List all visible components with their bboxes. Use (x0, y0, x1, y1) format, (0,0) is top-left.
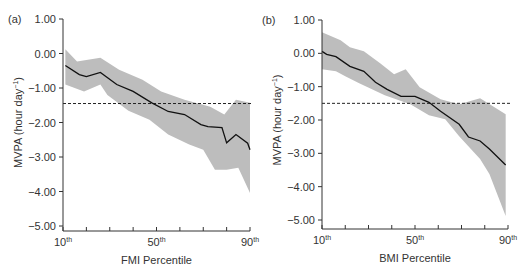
y-tick-label: 1.00 (35, 13, 56, 25)
x-tick-label: 10th (313, 234, 331, 246)
x-tick-label: 10th (54, 236, 72, 248)
panel-label: (a) (8, 13, 21, 25)
y-tick-label: 0.00 (294, 47, 315, 59)
x-tick-label: 90th (241, 236, 259, 248)
x-tick-label: 90th (499, 234, 517, 246)
y-tick-label: −1.00 (287, 81, 315, 93)
y-tick-label: −2.00 (28, 117, 56, 129)
confidence-band (65, 49, 250, 193)
panel-a-fmi-chart: 1.000.00−1.00−2.00−3.00−4.00−5.0010th50t… (8, 13, 259, 266)
y-tick-label: −4.00 (287, 181, 315, 193)
panel-b-bmi-chart: 1.000.00−1.00−2.00−3.00−4.00−5.0010th50t… (262, 14, 517, 264)
y-tick-label: −5.00 (287, 214, 315, 226)
x-tick-label: 50th (147, 236, 165, 248)
y-tick-label: −4.00 (28, 186, 56, 198)
y-tick-label: 0.00 (35, 48, 56, 60)
panel-label: (b) (262, 14, 275, 26)
figure: 1.000.00−1.00−2.00−3.00−4.00−5.0010th50t… (0, 0, 532, 274)
y-axis-label: MVPA (hour day−1) (271, 75, 283, 166)
x-axis-label: BMI Percentile (379, 252, 451, 264)
y-tick-label: −3.00 (287, 147, 315, 159)
x-tick-label: 50th (406, 234, 424, 246)
y-tick-label: −2.00 (287, 114, 315, 126)
y-tick-label: −5.00 (28, 220, 56, 232)
x-axis-label: FMI Percentile (121, 254, 192, 266)
y-tick-label: −1.00 (28, 82, 56, 94)
y-axis-label: MVPA (hour day−1) (12, 77, 24, 168)
y-tick-label: −3.00 (28, 151, 56, 163)
y-tick-label: 1.00 (294, 14, 315, 26)
confidence-band (322, 32, 506, 216)
